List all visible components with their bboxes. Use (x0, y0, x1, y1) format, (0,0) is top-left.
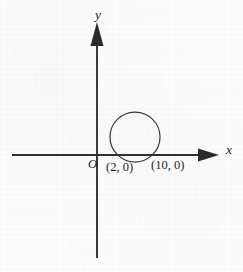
origin-label: O (88, 158, 97, 171)
x-axis-arrow-icon (198, 149, 219, 162)
figure-canvas: y x O (2, 0) (10, 0) (0, 0, 243, 272)
y-axis-label: y (95, 8, 101, 22)
point-label-left-intercept: (2, 0) (106, 161, 133, 174)
y-axis-arrow-icon (91, 22, 104, 46)
x-axis-label: x (226, 143, 232, 157)
coordinate-plane-graphic (0, 0, 243, 272)
point-label-right-intercept: (10, 0) (151, 159, 184, 172)
